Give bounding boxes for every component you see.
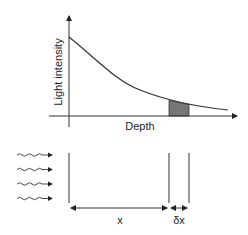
wave-arrow <box>17 197 52 200</box>
shaded-slice <box>169 101 189 117</box>
wave-arrow <box>17 154 52 157</box>
x-dimension-label: x <box>117 214 123 226</box>
incoming-light-waves <box>17 154 52 200</box>
dx-dimension-label: δx <box>173 214 185 226</box>
wave-arrow <box>17 168 52 171</box>
light-attenuation-diagram: Light intensity Depth x δx <box>0 0 248 235</box>
x-axis-label: Depth <box>125 120 154 132</box>
wave-arrow <box>17 183 52 186</box>
intensity-curve <box>69 37 228 110</box>
y-axis-label: Light intensity <box>52 38 64 106</box>
